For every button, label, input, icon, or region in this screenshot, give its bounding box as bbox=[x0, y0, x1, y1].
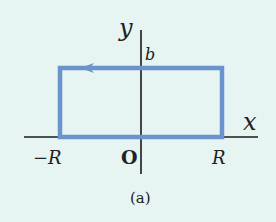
pos-R-label: R bbox=[212, 149, 226, 167]
x-axis-label: x bbox=[243, 110, 257, 134]
origin-label: O bbox=[121, 148, 138, 167]
b-label: b bbox=[145, 47, 155, 63]
figure-caption: (a) bbox=[130, 191, 151, 206]
y-axis-label: y bbox=[119, 16, 133, 40]
neg-R-label: −R bbox=[33, 149, 62, 167]
